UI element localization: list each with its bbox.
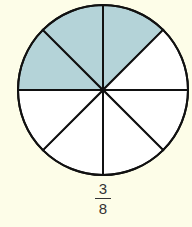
fraction-bar xyxy=(95,198,111,199)
fraction-label: 3 8 xyxy=(93,181,113,216)
denominator: 8 xyxy=(93,201,113,216)
numerator: 3 xyxy=(93,181,113,196)
